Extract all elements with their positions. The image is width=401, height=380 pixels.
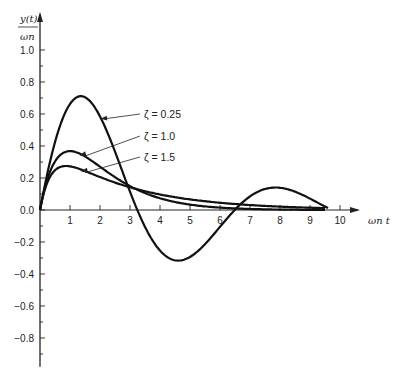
- curve-zeta-1: [40, 151, 325, 210]
- annotation-leader-line: [85, 157, 140, 173]
- x-tick-label: 2: [97, 215, 103, 226]
- y-tick-label: −0.4: [14, 269, 34, 280]
- x-tick-label: 3: [127, 215, 133, 226]
- y-axis-title-numerator: y(t): [19, 13, 38, 24]
- x-tick-label: 1: [67, 215, 73, 226]
- y-tick-label: 0.6: [20, 109, 34, 120]
- ticks: 1.00.80.60.40.20.0−0.2−0.4−0.6−0.8123456…: [14, 45, 346, 355]
- series-label: ζ = 1.0: [144, 130, 175, 142]
- curve-zeta-0-25: [40, 96, 328, 260]
- series-label: ζ = 1.5: [144, 151, 175, 163]
- y-tick-label: −0.2: [14, 237, 34, 248]
- axis-titles: y(t) ωn ωn t: [18, 13, 391, 226]
- axes: [37, 12, 360, 367]
- annotation-leader-line: [105, 114, 141, 119]
- x-tick-label: 4: [157, 215, 163, 226]
- y-tick-label: −0.8: [14, 333, 34, 344]
- y-axis-arrow-icon: [37, 12, 43, 22]
- x-tick-label: 10: [334, 215, 346, 226]
- x-tick-label: 5: [187, 215, 193, 226]
- x-axis-title: ωn t: [368, 215, 391, 226]
- y-tick-label: 0.8: [20, 77, 34, 88]
- x-tick-label: 9: [307, 215, 313, 226]
- y-tick-label: −0.6: [14, 301, 34, 312]
- y-axis-title-denominator: ωn: [20, 31, 35, 42]
- y-tick-label: 0.0: [20, 205, 34, 216]
- y-tick-label: 0.2: [20, 173, 34, 184]
- x-axis-arrow-icon: [350, 207, 360, 213]
- y-tick-label: 1.0: [20, 45, 34, 56]
- y-tick-label: 0.4: [20, 141, 34, 152]
- impulse-response-chart: 1.00.80.60.40.20.0−0.2−0.4−0.6−0.8123456…: [0, 0, 401, 380]
- x-tick-label: 7: [247, 215, 253, 226]
- curves: [40, 96, 328, 260]
- x-tick-label: 8: [277, 215, 283, 226]
- annotation-leader-line: [84, 136, 141, 157]
- series-label: ζ = 0.25: [144, 108, 181, 120]
